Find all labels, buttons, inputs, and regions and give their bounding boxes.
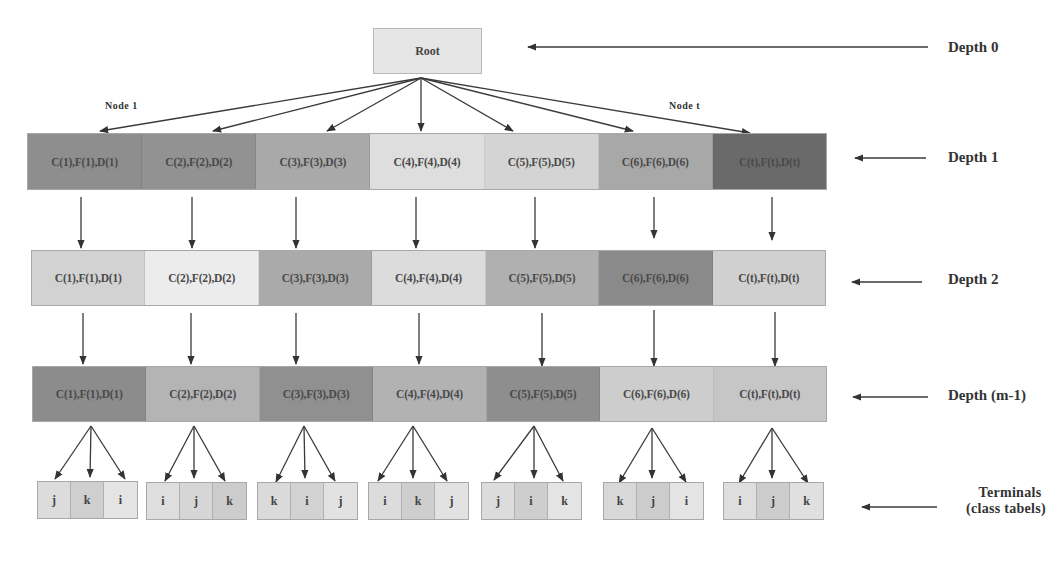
depth-2-cell-2: C(2),F(2),D(2) xyxy=(145,251,258,305)
depth-1-cell-4: C(4),F(4),D(4) xyxy=(370,134,484,189)
depth-m-1-cell-1: C(1),F(1),D(1) xyxy=(33,367,146,421)
terminal-class-cell: k xyxy=(258,483,291,519)
depth-1-cell-5: C(5),F(5),D(5) xyxy=(485,134,599,189)
terminal-class-cell: j xyxy=(435,483,468,519)
terminal-group-5: jik xyxy=(481,482,582,520)
node-1-label: Node 1 xyxy=(105,100,138,111)
terminal-group-2: ijk xyxy=(146,482,247,520)
depth-m-1-row: C(1),F(1),D(1)C(2),F(2),D(2)C(3),F(3),D(… xyxy=(32,366,827,422)
depth-2-cell-3: C(3),F(3),D(3) xyxy=(259,251,372,305)
terminal-class-cell: k xyxy=(604,483,637,519)
terminals-label-line1: Terminals xyxy=(955,485,1061,501)
terminal-group-7: ijk xyxy=(723,482,824,520)
terminal-class-cell: j xyxy=(180,483,213,519)
terminal-class-cell: i xyxy=(724,483,757,519)
terminal-class-cell: j xyxy=(757,483,790,519)
terminal-class-cell: k xyxy=(213,483,246,519)
depth-1-label: Depth 1 xyxy=(948,149,998,166)
node-t-label: Node t xyxy=(669,100,700,111)
terminal-class-cell: i xyxy=(670,483,703,519)
terminal-class-cell: k xyxy=(402,483,435,519)
terminal-class-cell: j xyxy=(324,483,357,519)
terminal-class-cell: j xyxy=(637,483,670,519)
terminal-class-cell: i xyxy=(369,483,402,519)
terminal-class-cell: i xyxy=(515,483,548,519)
terminal-group-4: ikj xyxy=(368,482,469,520)
depth-2-row: C(1),F(1),D(1)C(2),F(2),D(2)C(3),F(3),D(… xyxy=(31,250,826,306)
root-label: Root xyxy=(415,44,440,59)
depth-1-cell-6: C(6),F(6),D(6) xyxy=(599,134,713,189)
terminal-class-cell: k xyxy=(548,483,581,519)
root-node: Root xyxy=(373,28,482,74)
terminal-class-cell: k xyxy=(790,483,823,519)
depth-m-1-cell-3: C(3),F(3),D(3) xyxy=(260,367,373,421)
depth-2-cell-7: C(t),F(t),D(t) xyxy=(713,251,825,305)
terminal-class-cell: k xyxy=(71,482,104,518)
depth-1-row: C(1),F(1),D(1)C(2),F(2),D(2)C(3),F(3),D(… xyxy=(27,133,827,190)
depth-m-1-cell-6: C(6),F(6),D(6) xyxy=(600,367,713,421)
depth-m-1-cell-4: C(4),F(4),D(4) xyxy=(373,367,486,421)
depth-2-cell-4: C(4),F(4),D(4) xyxy=(372,251,485,305)
terminal-group-6: kji xyxy=(603,482,704,520)
terminal-class-cell: i xyxy=(104,482,137,518)
terminals-label-line2: (class tabels) xyxy=(947,501,1061,517)
depth-2-cell-5: C(5),F(5),D(5) xyxy=(486,251,599,305)
terminal-group-3: kij xyxy=(257,482,358,520)
depth-1-cell-2: C(2),F(2),D(2) xyxy=(142,134,256,189)
depth-m-1-label: Depth (m-1) xyxy=(948,387,1026,404)
terminal-group-1: jki xyxy=(37,481,138,519)
terminal-class-cell: j xyxy=(482,483,515,519)
depth-0-label: Depth 0 xyxy=(948,39,998,56)
depth-2-cell-6: C(6),F(6),D(6) xyxy=(599,251,712,305)
terminal-class-cell: i xyxy=(291,483,324,519)
depth-m-1-cell-5: C(5),F(5),D(5) xyxy=(487,367,600,421)
depth-2-cell-1: C(1),F(1),D(1) xyxy=(32,251,145,305)
terminal-class-cell: i xyxy=(147,483,180,519)
depth-1-cell-7: C(t),F(t),D(t) xyxy=(713,134,826,189)
terminal-class-cell: j xyxy=(38,482,71,518)
depth-1-cell-1: C(1),F(1),D(1) xyxy=(28,134,142,189)
depth-1-cell-3: C(3),F(3),D(3) xyxy=(256,134,370,189)
depth-2-label: Depth 2 xyxy=(948,271,998,288)
depth-m-1-cell-2: C(2),F(2),D(2) xyxy=(146,367,259,421)
terminals-label: Terminals (class tabels) xyxy=(955,485,1061,517)
depth-m-1-cell-7: C(t),F(t),D(t) xyxy=(714,367,826,421)
